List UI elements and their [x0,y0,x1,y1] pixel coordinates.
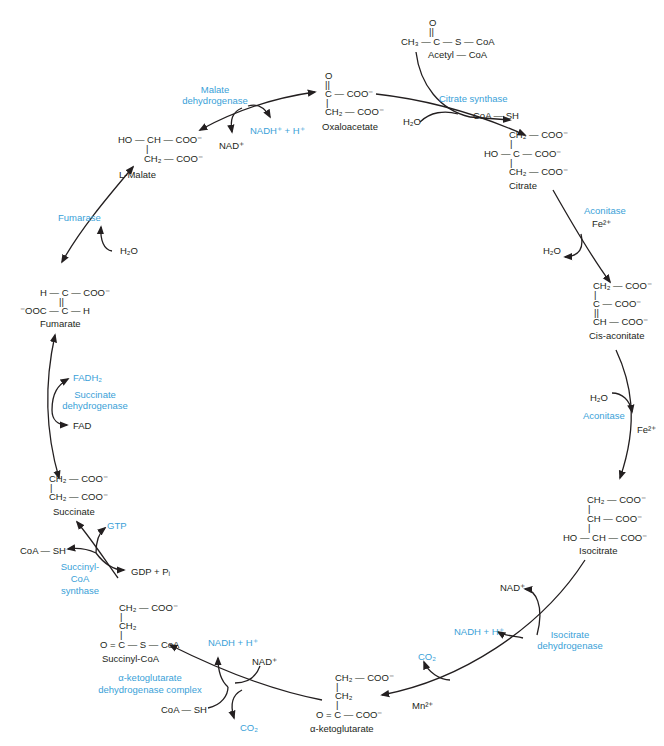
succinate-label: Succinate [53,506,95,517]
enzyme-isocitrate-dh-line2: dehydrogenase [530,640,610,651]
cofactor-aconitase1-fe: Fe²⁺ [592,218,611,229]
fumarate-line3: ⁻OOC — C — H [20,305,90,316]
oxaloacetate-line3: C — COO⁻ [325,88,373,99]
enzyme-sdh-line1: Succinate [60,389,130,400]
cofactor-fumarase-h2o: H₂O [120,245,138,256]
cofactor-idh-co2: CO₂ [418,651,436,662]
enzyme-scs-line3: synthase [50,585,110,596]
cofactor-aconitase2-fe: Fe²⁺ [637,424,656,435]
enzyme-scs-line1: Succinyl- [50,561,110,572]
citrate-line1: CH₂ — COO⁻ [509,129,568,140]
enzyme-citrate-synthase: Citrate synthase [439,93,508,104]
succinyl-coa-label: Succinyl-CoA [102,653,159,664]
enzyme-fumarase: Fumarase [58,212,101,223]
cofactor-sdh-fadh2: FADH₂ [73,372,102,383]
malate-line1: HO — CH — COO⁻ [118,134,202,145]
cofactor-idh-mn: Mn²⁺ [412,700,433,711]
succinate-line3: CH₂ — COO⁻ [49,491,108,502]
cis-aconitate-line3: C — COO⁻ [593,298,641,309]
isocitrate-label: Isocitrate [579,545,618,556]
akg-line5: O = C — COO⁻ [316,709,383,720]
enzyme-isocitrate-dh-line1: Isocitrate [530,629,610,640]
cofactor-mdh-nad: NAD⁺ [219,140,244,151]
enzyme-sdh-line2: dehydrogenase [60,400,130,411]
enzyme-mdh-line2: dehydrogenase [175,95,255,106]
oxaloacetate-line5: CH₂ — COO⁻ [325,106,384,117]
succinate-line1: CH₂ — COO⁻ [49,473,108,484]
cofactor-akg-coash: CoA — SH [161,704,207,715]
cofactor-scs-coash: CoA — SH [20,545,66,556]
acetyl-coa-formula: CH₃ — C — S — CoA [401,36,495,47]
akg-label: α-ketoglutarate [310,723,374,734]
cofactor-mdh-nadh: NADH⁺ + H⁺ [250,125,305,136]
citrate-label: Citrate [509,180,537,191]
fumarate-label: Fumarate [40,318,81,329]
succinate-dh-arrow [48,335,59,478]
cis-aconitate-line5: CH — COO⁻ [593,316,648,327]
fumarate-line1: H — C — COO⁻ [40,287,110,298]
enzyme-aconitase-1: Aconitase [584,205,626,216]
enzyme-scs-line2: CoA [50,573,110,584]
enzyme-mdh-line1: Malate [175,84,255,95]
acetyl-coa-label: Acetyl — CoA [428,49,487,60]
cofactor-scs-gdp: GDP + Pᵢ [131,566,170,577]
oxaloacetate-label: Oxaloacetate [322,121,378,132]
cofactor-citrate-synthase-h2o: H₂O [403,116,421,127]
cofactor-idh-nadh: NADH + H⁺ [454,626,504,637]
cofactor-aconitase2-h2o: H₂O [590,392,608,403]
malate-label: L-Malate [119,169,156,180]
cofactor-idh-nad: NAD⁺ [500,582,525,593]
cofactor-sdh-fad: FAD [73,420,91,431]
citric-acid-cycle-diagram: O || CH₃ — C — S — CoA Acetyl — CoA O ||… [0,0,664,746]
enzyme-aconitase-2: Aconitase [583,410,625,421]
enzyme-akg-dh-line1: α-ketoglutarate [95,672,205,683]
citrate-line3: HO — C — COO⁻ [484,148,561,159]
cofactor-citrate-synthase-coash: CoA — SH [473,110,519,121]
isocitrate-line1: CH₂ — COO⁻ [587,494,646,505]
akg-line1: CH₂ — COO⁻ [335,672,394,683]
acetyl-coa-arrow [416,52,470,117]
cofactor-scs-gtp: GTP [107,520,127,531]
cis-aconitate-line1: CH₂ — COO⁻ [593,280,652,291]
cis-aconitate-label: Cis-aconitate [589,330,644,341]
cofactor-aconitase1-h2o: H₂O [543,245,561,256]
succinyl-coa-line5: O = C — S — CoA [100,639,179,650]
cofactor-akg-nad: NAD⁺ [252,656,277,667]
isocitrate-line3: CH — COO⁻ [587,513,642,524]
enzyme-akg-dh-line2: dehydrogenase complex [95,684,205,695]
cofactor-akg-nadh: NADH + H⁺ [208,637,258,648]
isocitrate-line5: HO — CH — COO⁻ [563,532,647,543]
malate-line3: CH₂ — COO⁻ [144,153,203,164]
citrate-line5: CH₂ — COO⁻ [509,166,568,177]
cofactor-akg-co2: CO₂ [240,722,258,733]
succinyl-coa-line1: CH₂ — COO⁻ [119,602,178,613]
